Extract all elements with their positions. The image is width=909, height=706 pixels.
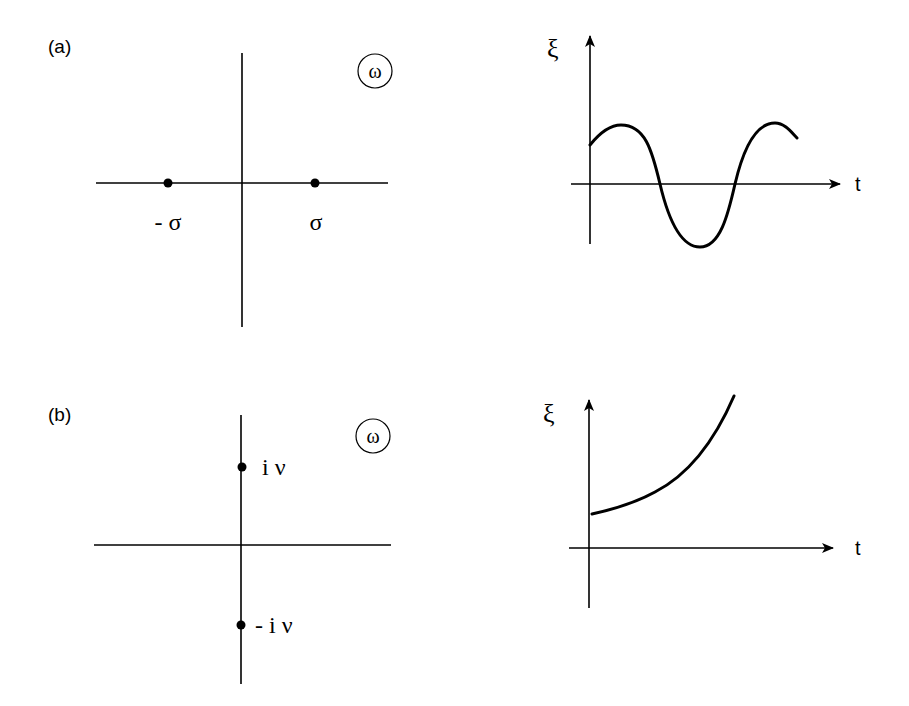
root-label-neg-sigma: - σ (155, 209, 182, 235)
complex-plane-a: - σ σ ω (96, 53, 392, 327)
time-plot-b: ξ t (543, 396, 861, 608)
x-axis-label-t: t (855, 537, 861, 559)
y-axis-label-xi: ξ (543, 399, 555, 428)
omega-symbol: ω (368, 60, 381, 82)
root-label-sigma: σ (310, 209, 323, 235)
root-point-neg-sigma (164, 179, 173, 188)
oscillating-curve (590, 123, 797, 247)
panel-b: (b) i ν - i ν ω ξ t (48, 396, 861, 684)
root-label-i-nu: i ν (262, 454, 286, 480)
x-axis-label-t: t (855, 173, 861, 195)
complex-plane-b: i ν - i ν ω (94, 415, 391, 684)
panel-label-b: (b) (48, 404, 71, 425)
root-point-sigma (311, 179, 320, 188)
y-axis-label-xi: ξ (547, 34, 559, 63)
time-plot-a: ξ t (547, 34, 861, 247)
root-point-neg-i-nu (237, 621, 246, 630)
root-point-i-nu (238, 463, 247, 472)
root-label-neg-i-nu: - i ν (255, 612, 293, 638)
panel-label-a: (a) (48, 36, 71, 57)
exponential-growth-curve (592, 396, 734, 514)
figure: (a) - σ σ ω ξ t (b) i ν - i ν (0, 0, 909, 706)
omega-symbol: ω (366, 425, 379, 447)
panel-a: (a) - σ σ ω ξ t (48, 34, 861, 327)
